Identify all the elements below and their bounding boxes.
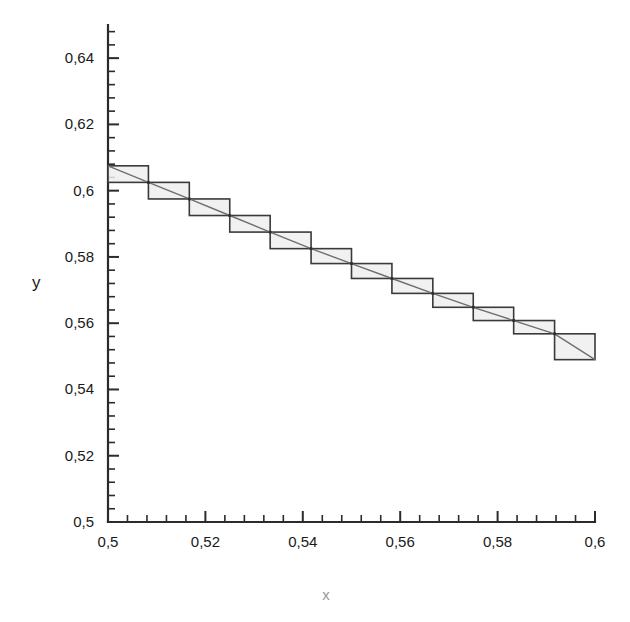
x-tick-label: 0,56 — [386, 533, 415, 550]
y-tick-label: 0,5 — [73, 513, 94, 530]
curve-knot — [228, 214, 231, 217]
chart-figure: 0,50,520,540,560,580,6 0,50,520,540,560,… — [0, 0, 630, 622]
x-tick-label: 0,54 — [288, 533, 317, 550]
x-axis-label: x — [322, 586, 330, 603]
curve-knot — [350, 262, 353, 265]
y-tick-label: 0,62 — [65, 115, 94, 132]
x-tick-label: 0,52 — [191, 533, 220, 550]
y-tick-label: 0,56 — [65, 314, 94, 331]
y-axis-label: y — [32, 273, 41, 292]
curve-knot — [188, 197, 191, 200]
x-tick-label: 0,58 — [483, 533, 512, 550]
curve-knot — [472, 306, 475, 309]
y-tick-label: 0,54 — [65, 380, 94, 397]
figure-background — [0, 0, 630, 622]
curve-knot — [431, 292, 434, 295]
y-tick-label: 0,64 — [65, 49, 94, 66]
curve-knot — [147, 181, 150, 184]
x-tick-label: 0,6 — [585, 533, 606, 550]
curve-knot — [268, 230, 271, 233]
curve-knot — [390, 277, 393, 280]
x-tick-label: 0,5 — [98, 533, 119, 550]
curve-knot — [512, 319, 515, 322]
curve-knot — [309, 247, 312, 250]
y-tick-label: 0,52 — [65, 447, 94, 464]
y-tick-label: 0,6 — [73, 182, 94, 199]
y-tick-label: 0,58 — [65, 248, 94, 265]
curve-knot — [553, 332, 556, 335]
